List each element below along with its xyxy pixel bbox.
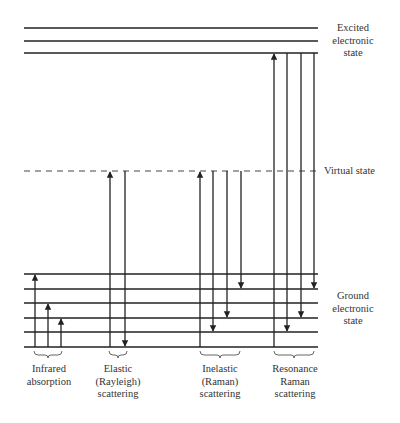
infrared-absorption-label: Infrared absorption xyxy=(18,363,80,388)
energy-diagram xyxy=(0,0,400,423)
rayleigh-arrows xyxy=(110,171,125,347)
ground-state-label: Ground electronic state xyxy=(322,290,384,328)
raman-arrows xyxy=(200,171,241,347)
group-braces xyxy=(34,351,314,358)
infrared-arrows xyxy=(35,275,61,347)
raman-scattering-label: Inelastic (Raman) scattering xyxy=(190,363,250,401)
excited-levels xyxy=(24,28,318,53)
virtual-state-label: Virtual state xyxy=(324,165,400,178)
excited-state-label: Excited electronic state xyxy=(322,22,384,60)
rayleigh-scattering-label: Elastic (Rayleigh) scattering xyxy=(88,363,148,401)
resonance-raman-label: Resonance Raman scattering xyxy=(264,363,326,401)
